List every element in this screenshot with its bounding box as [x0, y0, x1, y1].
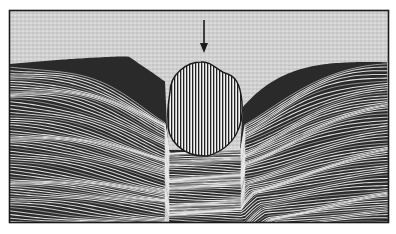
- diagram-figure: Line illustration: a rounded object (ver…: [0, 0, 396, 234]
- embedded-object: [168, 62, 243, 156]
- diagram-canvas: [0, 0, 396, 234]
